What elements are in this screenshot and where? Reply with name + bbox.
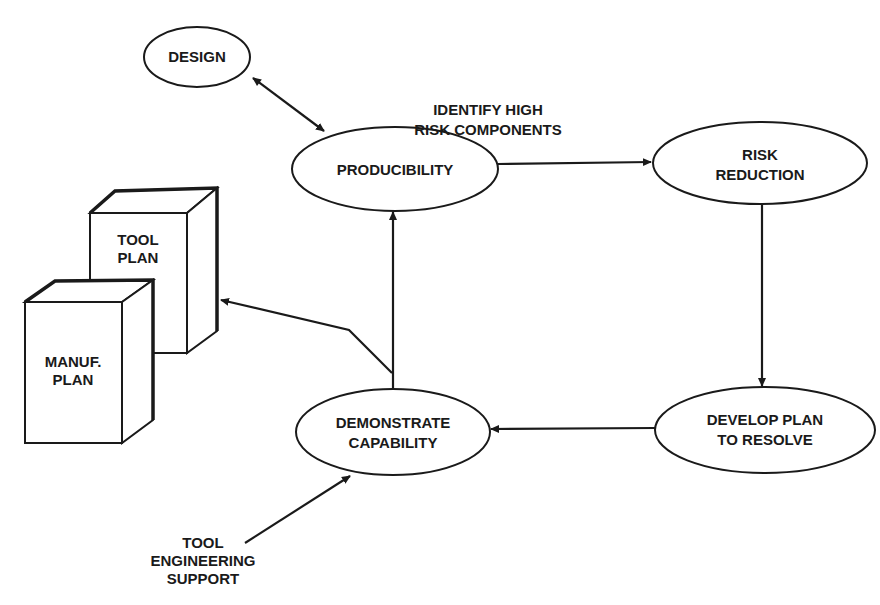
identify-label-2: RISK COMPONENTS	[414, 121, 562, 138]
edge-design-producibility	[253, 78, 324, 131]
edge-producibility-risk	[498, 162, 651, 164]
identify-label-1: IDENTIFY HIGH	[433, 101, 543, 118]
node-demonstrate-capability: DEMONSTRATE CAPABILITY	[296, 389, 490, 475]
node-demonstrate-label-2: CAPABILITY	[349, 434, 438, 451]
tool-support-label-1: TOOL	[182, 534, 223, 551]
node-risk-reduction: RISK REDUCTION	[653, 122, 867, 204]
box-manuf-plan: MANUF. PLAN	[25, 280, 153, 443]
node-demonstrate-label-1: DEMONSTRATE	[336, 414, 451, 431]
box-manuf-plan-label-1: MANUF.	[45, 353, 102, 370]
box-tool-plan-label-2: PLAN	[118, 249, 159, 266]
edge-develop-demonstrate	[491, 428, 655, 429]
node-design: DESIGN	[144, 27, 250, 87]
node-producibility-label: PRODUCIBILITY	[337, 161, 454, 178]
tool-support-label-2: ENGINEERING	[150, 552, 255, 569]
box-tool-plan-label-1: TOOL	[117, 231, 158, 248]
tool-support-label-3: SUPPORT	[167, 570, 240, 587]
box-manuf-plan-label-2: PLAN	[53, 371, 94, 388]
node-producibility: PRODUCIBILITY	[292, 127, 498, 211]
label-tool-engineering-support: TOOL ENGINEERING SUPPORT	[150, 534, 255, 587]
node-develop-plan-label-1: DEVELOP PLAN	[707, 411, 823, 428]
node-design-label: DESIGN	[168, 48, 226, 65]
process-diagram: DESIGN PRODUCIBILITY RISK REDUCTION DEVE…	[0, 0, 880, 605]
edge-label-identify-high-risk: IDENTIFY HIGH RISK COMPONENTS	[414, 101, 562, 138]
edge-demonstrate-tool-plan	[221, 300, 392, 373]
node-develop-plan: DEVELOP PLAN TO RESOLVE	[655, 387, 875, 473]
node-risk-reduction-label-2: REDUCTION	[715, 166, 804, 183]
edge-tool-support-demonstrate	[245, 476, 350, 543]
node-develop-plan-label-2: TO RESOLVE	[717, 431, 812, 448]
node-risk-reduction-label-1: RISK	[742, 146, 778, 163]
